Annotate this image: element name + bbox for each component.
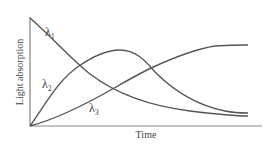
label-lambda2: λ2	[42, 77, 52, 93]
chart: λ1 λ2 λ3 Time Light absorption	[0, 0, 273, 146]
label-lambda3: λ3	[89, 101, 99, 117]
series-lambda1-line	[30, 18, 248, 116]
chart-svg: λ1 λ2 λ3 Time Light absorption	[0, 0, 273, 146]
x-axis-title: Time	[136, 129, 157, 140]
y-axis-title: Light absorption	[14, 39, 25, 105]
label-lambda1: λ1	[45, 25, 55, 41]
